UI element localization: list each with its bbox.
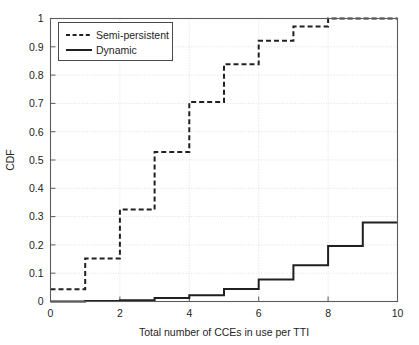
y-tick-label-6: 0.6 bbox=[29, 126, 44, 138]
y-axis-title: CDF bbox=[4, 149, 16, 171]
cdf-chart: 00.10.20.30.40.50.60.70.80.91 0246810 Se… bbox=[0, 0, 419, 345]
legend-label-dynamic: Dynamic bbox=[96, 44, 137, 56]
x-axis-title: Total number of CCEs in use per TTI bbox=[139, 326, 309, 338]
figure-container: 00.10.20.30.40.50.60.70.80.91 0246810 Se… bbox=[0, 0, 419, 345]
y-tick-label-8: 0.8 bbox=[29, 69, 44, 81]
y-tick-label-2: 0.2 bbox=[29, 239, 44, 251]
x-tick-label-3: 6 bbox=[256, 307, 262, 319]
x-tick-label-4: 8 bbox=[325, 307, 331, 319]
y-tick-label-9: 0.9 bbox=[29, 41, 44, 53]
y-tick-label-7: 0.7 bbox=[29, 97, 44, 109]
chart-legend[interactable]: Semi-persistent Dynamic bbox=[59, 23, 173, 61]
x-tick-label-0: 0 bbox=[48, 307, 54, 319]
y-tick-label-10: 1 bbox=[38, 12, 44, 24]
y-tick-label-5: 0.5 bbox=[29, 154, 44, 166]
x-tick-label-5: 10 bbox=[392, 307, 404, 319]
y-tick-label-0: 0 bbox=[38, 295, 44, 307]
x-tick-label-2: 4 bbox=[186, 307, 192, 319]
y-tick-label-1: 0.1 bbox=[29, 267, 44, 279]
y-tick-label-4: 0.4 bbox=[29, 182, 44, 194]
legend-label-semi-persistent: Semi-persistent bbox=[96, 29, 169, 41]
y-tick-label-3: 0.3 bbox=[29, 210, 44, 222]
x-tick-label-1: 2 bbox=[117, 307, 123, 319]
